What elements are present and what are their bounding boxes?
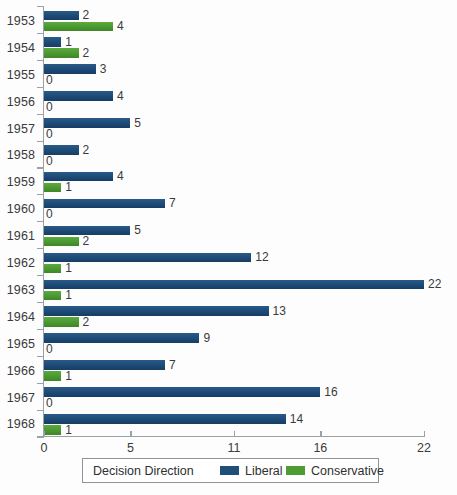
bar-value-label: 4 <box>117 90 124 102</box>
bar-value-label: 1 <box>65 424 72 436</box>
bar-conservative[interactable] <box>44 237 79 247</box>
bar-value-label: 0 <box>46 397 53 409</box>
x-axis-tick <box>424 431 425 437</box>
bar-value-label: 2 <box>83 47 90 59</box>
bar-row: 196590 <box>0 330 457 357</box>
bar-value-label: 2 <box>83 316 90 328</box>
bar-value-label: 1 <box>65 36 72 48</box>
y-axis-tick <box>37 33 44 34</box>
bar-row: 1967160 <box>0 384 457 411</box>
y-axis-label: 1965 <box>0 337 35 351</box>
x-axis-label: 5 <box>127 441 134 455</box>
legend-item-liberal[interactable]: Liberal <box>220 464 283 478</box>
y-axis-label: 1968 <box>0 417 35 431</box>
bar-row: 195750 <box>0 115 457 142</box>
bar-row: 196152 <box>0 223 457 250</box>
bar-value-label: 4 <box>117 170 124 182</box>
legend-title: Decision Direction <box>93 464 194 478</box>
bar-value-label: 1 <box>65 370 72 382</box>
bar-value-label: 2 <box>83 144 90 156</box>
y-axis-tick <box>37 248 44 249</box>
y-axis-tick <box>37 410 44 411</box>
bar-row: 1963221 <box>0 277 457 304</box>
y-axis-tick <box>37 436 44 437</box>
bar-row: 195324 <box>0 8 457 35</box>
bar-value-label: 1 <box>65 262 72 274</box>
y-axis-tick <box>37 141 44 142</box>
x-axis-tick <box>44 431 45 437</box>
bar-liberal[interactable] <box>44 199 165 209</box>
y-axis-label: 1955 <box>0 68 35 82</box>
legend-swatch-conservative <box>286 466 305 475</box>
bar-value-label: 3 <box>100 63 107 75</box>
bar-value-label: 0 <box>46 155 53 167</box>
bar-conservative[interactable] <box>44 317 79 327</box>
bar-value-label: 9 <box>203 332 210 344</box>
bar-liberal[interactable] <box>44 253 251 263</box>
bar-row: 1964132 <box>0 303 457 330</box>
bar-liberal[interactable] <box>44 118 130 128</box>
bar-value-label: 0 <box>46 101 53 113</box>
bar-value-label: 2 <box>83 9 90 21</box>
y-axis-label: 1958 <box>0 148 35 162</box>
bar-liberal[interactable] <box>44 11 79 21</box>
bar-liberal[interactable] <box>44 280 424 290</box>
bar-value-label: 12 <box>255 251 268 263</box>
bar-conservative[interactable] <box>44 264 61 274</box>
bar-conservative[interactable] <box>44 425 61 435</box>
bar-row: 196671 <box>0 357 457 384</box>
y-axis-tick <box>37 302 44 303</box>
bar-conservative[interactable] <box>44 22 113 32</box>
x-axis-label: 22 <box>417 441 431 455</box>
bar-value-label: 5 <box>134 224 141 236</box>
bar-conservative[interactable] <box>44 371 61 381</box>
bar-liberal[interactable] <box>44 91 113 101</box>
bar-value-label: 4 <box>117 20 124 32</box>
bar-value-label: 0 <box>46 128 53 140</box>
bar-conservative[interactable] <box>44 291 61 301</box>
bar-liberal[interactable] <box>44 414 286 424</box>
bar-conservative[interactable] <box>44 183 61 193</box>
y-axis-label: 1967 <box>0 391 35 405</box>
chart-legend: Decision Direction Liberal Conservative <box>82 458 379 483</box>
legend-label-liberal: Liberal <box>245 464 283 478</box>
bar-liberal[interactable] <box>44 333 199 343</box>
x-axis-tick <box>130 431 131 437</box>
legend-label-conservative: Conservative <box>311 464 384 478</box>
y-axis-tick <box>37 167 44 168</box>
x-axis-label: 0 <box>41 441 48 455</box>
plot-area: 1953241954121955301956401957501958201959… <box>0 0 457 440</box>
y-axis-tick <box>37 356 44 357</box>
y-axis-label: 1953 <box>0 14 35 28</box>
x-axis-label: 16 <box>313 441 327 455</box>
bar-liberal[interactable] <box>44 37 61 47</box>
x-axis-tick <box>320 431 321 437</box>
bar-liberal[interactable] <box>44 172 113 182</box>
bar-value-label: 7 <box>169 359 176 371</box>
y-axis-label: 1960 <box>0 202 35 216</box>
y-axis-tick <box>37 194 44 195</box>
bar-value-label: 7 <box>169 197 176 209</box>
y-axis-tick <box>37 221 44 222</box>
y-axis-label: 1959 <box>0 175 35 189</box>
legend-item-conservative[interactable]: Conservative <box>286 464 384 478</box>
bar-value-label: 2 <box>83 235 90 247</box>
bar-row: 196070 <box>0 196 457 223</box>
bar-row: 1968141 <box>0 411 457 438</box>
bar-value-label: 0 <box>46 208 53 220</box>
bar-liberal[interactable] <box>44 387 320 397</box>
y-axis-label: 1964 <box>0 310 35 324</box>
bar-value-label: 14 <box>290 413 303 425</box>
bar-value-label: 13 <box>273 305 286 317</box>
bar-liberal[interactable] <box>44 306 269 316</box>
y-axis-tick <box>37 114 44 115</box>
y-axis-label: 1956 <box>0 95 35 109</box>
bar-row: 195412 <box>0 34 457 61</box>
bar-chart: 1953241954121955301956401957501958201959… <box>0 0 457 495</box>
bar-row: 195820 <box>0 142 457 169</box>
bar-liberal[interactable] <box>44 360 165 370</box>
y-axis-tick <box>37 6 44 7</box>
x-axis-tick <box>234 431 235 437</box>
bar-conservative[interactable] <box>44 48 79 58</box>
y-axis-label: 1963 <box>0 283 35 297</box>
